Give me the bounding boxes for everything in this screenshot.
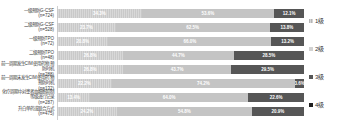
stacked-bar-chart: 一级预防G-CSF(n=724) 34.3%53.6%12.1% 二级预防G-C… [0, 0, 342, 128]
bar-segment-grade2: 66.0% [108, 37, 271, 46]
stacked-bar: 34.3%53.6%12.1% [57, 9, 304, 18]
bar-segment-grade2: 62.5% [116, 23, 270, 32]
bar-segment-grade1: 22.2% [57, 79, 112, 88]
row-label-0: 一级预防G-CSF(n=724) [0, 8, 57, 19]
bar-segment-grade2: 43.7% [123, 65, 231, 74]
legend-item: 2级 [309, 44, 342, 53]
chart-row: 一级预防G-CSF(n=724) 34.3%53.6%12.1% [0, 6, 306, 20]
legend-label: 2级 [315, 44, 324, 53]
bar-segment-grade2: 53.6% [142, 9, 274, 18]
chart-row: 前一周期发生CIM使用药物 预防时机(n=288) 26.8%43.7%29.5… [0, 62, 306, 76]
chart-row: 一级预防TPO(n=72) 20.8%66.0%13.2% [0, 34, 306, 48]
legend-item: 3级 [309, 72, 342, 81]
row-label-7: 升白单药或联合方式(n=475) [0, 106, 57, 117]
chart-row: 前一周期未发生CIM使用药 物预防时机(n=132) 22.2%74.2%3.6… [0, 76, 306, 90]
stacked-bar: 22.2%74.2%3.6% [57, 79, 304, 88]
legend-label: 1级 [315, 16, 324, 25]
bar-segment-grade1: 23.7% [57, 23, 116, 32]
legend-swatch-icon [309, 47, 313, 51]
chart-row: 二级预防TPO(n=48) 26.8%44.7%28.5% [0, 48, 306, 62]
stacked-bar: 23.7%62.5%13.8% [57, 23, 304, 32]
bar-segment-grade3: 13.2% [271, 37, 304, 46]
stacked-bar: 20.8%66.0%13.2% [57, 37, 304, 46]
row-label-6: 化疗周期中对患者血细胞抑制 等级进行记录(n=287) [0, 89, 57, 105]
bar-segment-grade1: 20.8% [57, 37, 108, 46]
row-label-3: 二级预防TPO(n=48) [0, 50, 57, 61]
row-label-2: 一级预防TPO(n=72) [0, 36, 57, 47]
bar-segment-grade1: 34.3% [57, 9, 142, 18]
bar-segment-grade3: 28.5% [234, 51, 304, 60]
legend-item: 4级 [309, 100, 342, 109]
bar-segment-grade3: 29.5% [231, 65, 304, 74]
chart-row: 化疗周期中对患者血细胞抑制 等级进行记录(n=287) 13.4%64.0%22… [0, 90, 306, 104]
chart-rows: 一级预防G-CSF(n=724) 34.3%53.6%12.1% 二级预防G-C… [0, 6, 306, 118]
bar-segment-grade1: 26.8% [57, 65, 123, 74]
legend-swatch-icon [309, 19, 313, 23]
bar-segment-grade3: 22.6% [248, 93, 304, 102]
bar-segment-grade3: 13.8% [270, 23, 304, 32]
bar-segment-grade2: 64.0% [90, 93, 248, 102]
stacked-bar: 13.4%64.0%22.6% [57, 93, 304, 102]
chart-row: 升白单药或联合方式(n=475) 24.2%54.8%20.9% [0, 104, 306, 118]
chart-row: 二级预防G-CSF(n=528) 23.7%62.5%13.8% [0, 20, 306, 34]
bar-segment-grade3: 20.9% [252, 107, 304, 116]
stacked-bar: 26.8%44.7%28.5% [57, 51, 304, 60]
bar-segment-grade3: 3.6% [295, 79, 304, 88]
stacked-bar: 26.8%43.7%29.5% [57, 65, 304, 74]
chart-legend: 1级 2级 3级 4级 [309, 16, 342, 109]
bar-segment-grade2: 54.8% [117, 107, 252, 116]
row-label-1: 二级预防G-CSF(n=528) [0, 22, 57, 33]
bar-segment-grade2: 74.2% [112, 79, 295, 88]
stacked-bar: 24.2%54.8%20.9% [57, 107, 304, 116]
legend-label: 3级 [315, 72, 324, 81]
bar-segment-grade2: 44.7% [123, 51, 233, 60]
bar-segment-grade1: 13.4% [57, 93, 90, 102]
legend-swatch-icon [309, 75, 313, 79]
legend-swatch-icon [309, 103, 313, 107]
legend-item: 1级 [309, 16, 342, 25]
bar-segment-grade1: 26.8% [57, 51, 123, 60]
bar-segment-grade3: 12.1% [274, 9, 304, 18]
legend-label: 4级 [315, 100, 324, 109]
bar-segment-grade1: 24.2% [57, 107, 117, 116]
